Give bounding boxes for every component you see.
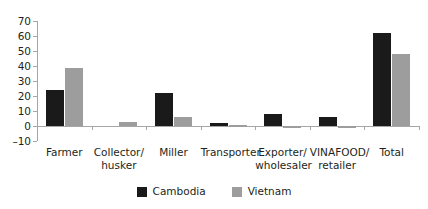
- bar-vietnam-5: [338, 126, 356, 128]
- bar-cambodia-0: [46, 90, 64, 126]
- x-axis-label-line: wholesaler: [255, 159, 310, 172]
- chart-legend: CambodiaVietnam: [0, 186, 428, 197]
- y-axis-tick-label: –10: [1, 136, 31, 147]
- x-axis-label-1: Collector/husker: [92, 146, 147, 171]
- x-axis-tick: [310, 126, 311, 130]
- x-axis-tick: [419, 126, 420, 130]
- y-axis-tick-label: 60: [1, 31, 31, 42]
- bar-vietnam-6: [392, 54, 410, 126]
- x-axis-label-0: Farmer: [37, 146, 92, 159]
- x-axis-tick: [364, 126, 365, 130]
- y-axis-tick: [33, 141, 37, 142]
- x-axis-label-line: Farmer: [37, 146, 92, 159]
- y-axis-tick-label: 50: [1, 46, 31, 57]
- bar-vietnam-0: [65, 68, 83, 127]
- y-axis-tick-label: 70: [1, 16, 31, 27]
- x-axis-tick: [92, 126, 93, 130]
- x-axis-label-line: Total: [364, 146, 419, 159]
- plot-area: [37, 21, 419, 141]
- legend-swatch-vietnam: [232, 187, 242, 197]
- y-axis-tick-label: 10: [1, 106, 31, 117]
- bar-chart: –10010203040506070 FarmerCollector/huske…: [0, 0, 428, 209]
- bar-vietnam-3: [229, 125, 247, 127]
- legend-swatch-cambodia: [137, 187, 147, 197]
- legend-label: Cambodia: [153, 186, 206, 197]
- x-axis-label-line: Exporter/: [255, 146, 310, 159]
- y-axis-tick-label: 40: [1, 61, 31, 72]
- legend-item-cambodia[interactable]: Cambodia: [137, 186, 206, 197]
- bar-vietnam-4: [283, 126, 301, 128]
- legend-item-vietnam[interactable]: Vietnam: [232, 186, 292, 197]
- bar-cambodia-5: [319, 117, 337, 126]
- x-axis-label-line: Collector/: [92, 146, 147, 159]
- x-axis-tick: [255, 126, 256, 130]
- x-axis-tick: [201, 126, 202, 130]
- x-axis-label-2: Miller: [146, 146, 201, 159]
- y-axis-tick-label: 20: [1, 91, 31, 102]
- x-axis-label-line: VINAFOOD/: [310, 146, 365, 159]
- x-axis-label-4: Exporter/wholesaler: [255, 146, 310, 171]
- y-axis-tick-label: 30: [1, 76, 31, 87]
- x-axis-label-6: Total: [364, 146, 419, 159]
- y-axis-tick-label: 0: [1, 121, 31, 132]
- x-axis-label-line: Miller: [146, 146, 201, 159]
- legend-label: Vietnam: [248, 186, 292, 197]
- x-axis-tick: [146, 126, 147, 130]
- x-axis-label-line: husker: [92, 159, 147, 172]
- bar-cambodia-4: [264, 114, 282, 126]
- bar-vietnam-2: [174, 117, 192, 126]
- bar-cambodia-3: [210, 123, 228, 126]
- x-axis-label-3: Transporter: [201, 146, 256, 159]
- x-axis-label-line: retailer: [310, 159, 365, 172]
- bar-cambodia-2: [155, 93, 173, 126]
- x-axis-label-5: VINAFOOD/retailer: [310, 146, 365, 171]
- x-axis-label-line: Transporter: [201, 146, 256, 159]
- bar-cambodia-6: [373, 33, 391, 126]
- bar-vietnam-1: [119, 122, 137, 127]
